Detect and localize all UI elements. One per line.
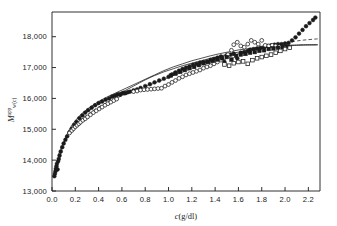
data-point-open-circle <box>115 97 119 101</box>
data-point-open-square <box>265 54 269 58</box>
data-point-filled-square <box>258 49 262 53</box>
data-point-filled-square <box>272 47 276 51</box>
data-point-open-square <box>288 46 292 50</box>
data-point-filled-circle <box>308 21 312 25</box>
x-tick-label: 1.4 <box>210 195 221 204</box>
data-point-open-square <box>255 56 259 60</box>
data-point-filled-circle <box>62 142 66 146</box>
x-tick-label: 2.0 <box>279 195 290 204</box>
scatter-plot: 0.00.20.40.60.81.01.21.41.61.82.02.2 13,… <box>0 0 337 226</box>
data-point-open-circle <box>174 79 178 83</box>
data-point-filled-square <box>197 63 201 67</box>
data-point-open-square <box>251 58 255 62</box>
data-series-markers <box>52 16 317 178</box>
data-point-filled-square <box>239 53 243 57</box>
data-point-open-square <box>237 60 241 64</box>
data-point-open-square <box>260 55 264 59</box>
data-point-filled-square <box>174 72 178 76</box>
series-filled-circles <box>52 16 317 178</box>
x-tick-label: 1.8 <box>256 195 267 204</box>
y-tick-label: 16,000 <box>23 94 47 103</box>
data-point-filled-circle <box>93 103 97 107</box>
data-point-open-circle <box>235 40 239 44</box>
data-point-open-square <box>241 60 245 64</box>
data-point-filled-circle <box>162 77 166 81</box>
data-point-filled-circle <box>297 32 301 36</box>
data-point-filled-circle <box>313 16 317 20</box>
data-point-open-square <box>283 47 287 51</box>
y-axis-tick-labels: 13,00014,00015,00016,00017,00018,000 <box>23 32 47 195</box>
data-point-filled-circle <box>148 82 152 86</box>
y-tick-label: 15,000 <box>23 125 47 134</box>
x-axis-title: c(g/dl) <box>175 212 198 221</box>
x-tick-label: 0.8 <box>140 195 151 204</box>
data-point-filled-square <box>234 54 238 58</box>
data-point-filled-square <box>206 60 210 64</box>
x-tick-label: 0.6 <box>116 195 127 204</box>
data-point-filled-circle <box>56 168 60 172</box>
data-point-open-square <box>269 53 273 57</box>
data-point-filled-square <box>244 52 248 56</box>
data-point-filled-circle <box>301 28 305 32</box>
data-point-open-circle <box>232 43 236 47</box>
data-point-open-circle <box>167 83 171 87</box>
data-point-filled-circle <box>86 108 90 112</box>
data-point-filled-square <box>220 56 224 60</box>
data-point-filled-square <box>192 65 196 69</box>
data-point-open-circle <box>242 45 246 49</box>
x-axis-tick-labels: 0.00.20.40.60.81.01.21.41.61.82.02.2 <box>46 195 314 204</box>
x-axis-ticks <box>52 187 308 191</box>
data-point-open-square <box>274 51 278 55</box>
x-tick-label: 0.4 <box>93 195 104 204</box>
data-point-filled-circle <box>157 79 161 83</box>
data-point-open-circle <box>256 42 260 46</box>
data-point-filled-circle <box>90 106 94 110</box>
theory-curves <box>58 39 317 161</box>
y-tick-label: 14,000 <box>23 156 47 165</box>
data-point-filled-circle <box>153 80 157 84</box>
series-filled-squares <box>169 45 289 78</box>
data-point-open-square <box>232 61 236 65</box>
x-tick-label: 1.0 <box>163 195 174 204</box>
data-point-filled-circle <box>287 41 291 45</box>
data-point-open-square <box>246 62 250 66</box>
data-point-open-square <box>223 63 227 67</box>
data-point-open-square <box>279 49 283 53</box>
data-point-filled-circle <box>97 101 101 105</box>
data-point-filled-square <box>248 51 252 55</box>
data-point-filled-circle <box>294 35 298 39</box>
x-tick-label: 0.2 <box>70 195 81 204</box>
data-point-filled-square <box>230 58 234 62</box>
data-point-filled-circle <box>60 145 64 149</box>
data-point-filled-square <box>169 74 173 78</box>
data-point-filled-circle <box>58 154 62 158</box>
data-point-filled-square <box>202 61 206 65</box>
data-point-open-square <box>227 64 231 68</box>
y-axis-title: Mappw(c) <box>6 97 18 123</box>
theory-curve-solid <box>87 45 318 112</box>
data-point-filled-circle <box>290 38 294 42</box>
x-tick-label: 1.2 <box>186 195 197 204</box>
data-point-filled-circle <box>104 98 108 102</box>
theory-curve-dashed <box>58 39 317 155</box>
svg-text:c(g/dl): c(g/dl) <box>175 212 198 221</box>
x-axis-title-units: (g/dl) <box>179 212 198 221</box>
figure-container: 0.00.20.40.60.81.01.21.41.61.82.02.2 13,… <box>0 0 337 226</box>
data-point-open-circle <box>260 38 264 42</box>
x-tick-label: 2.2 <box>303 195 314 204</box>
data-point-filled-square <box>267 47 271 51</box>
data-point-filled-square <box>253 50 257 54</box>
data-point-filled-circle <box>304 24 308 28</box>
y-axis-title-subscript: w(c) <box>11 97 18 107</box>
data-point-filled-square <box>216 58 220 62</box>
data-point-filled-square <box>183 68 187 72</box>
y-tick-label: 18,000 <box>23 32 47 41</box>
svg-text:Mappw(c): Mappw(c) <box>6 97 18 123</box>
data-point-filled-square <box>225 55 229 59</box>
data-point-filled-square <box>178 70 182 74</box>
data-point-open-circle <box>230 48 234 52</box>
data-point-filled-circle <box>143 84 147 88</box>
data-point-filled-circle <box>77 116 81 120</box>
x-tick-label: 0.0 <box>46 195 57 204</box>
data-point-filled-square <box>211 59 215 63</box>
